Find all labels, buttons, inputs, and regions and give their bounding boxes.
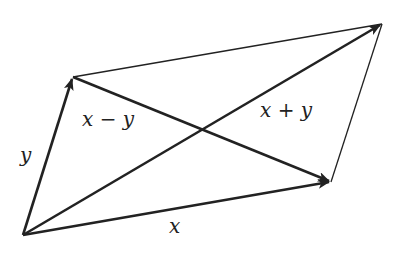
label-sum: x + y (260, 98, 313, 122)
right-side (331, 24, 382, 182)
label-diff: x − y (82, 107, 135, 131)
parallelogram-diagram: x y x − y x + y (0, 0, 403, 253)
label-x: x (169, 214, 180, 238)
label-y: y (19, 143, 32, 167)
